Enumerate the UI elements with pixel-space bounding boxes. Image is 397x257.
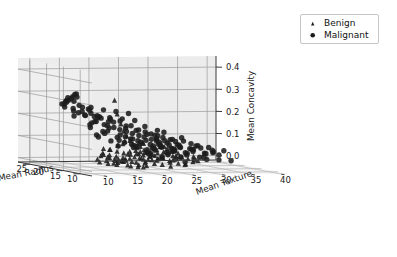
malignant-point (92, 119, 97, 124)
malignant-point (181, 138, 186, 143)
malignant-point (143, 138, 148, 143)
malignant-point (111, 119, 116, 124)
malignant-point (116, 138, 121, 143)
z-tick-label: 0.1 (226, 129, 240, 139)
malignant-point (161, 130, 166, 135)
legend-label-benign: Benign (324, 18, 355, 28)
legend[interactable]: Benign Malignant (301, 15, 379, 44)
malignant-point (155, 133, 160, 138)
y-tick-label: 10 (103, 177, 114, 187)
malignant-point (98, 115, 103, 120)
malignant-point (132, 118, 137, 123)
malignant-point (136, 133, 141, 138)
malignant-point (105, 123, 110, 128)
malignant-point (204, 157, 209, 162)
scatter3d-plot: 10152025101520253035400.00.10.20.30.4 Me… (0, 0, 397, 257)
malignant-point (149, 137, 154, 142)
malignant-point (115, 143, 120, 148)
y-tick-label: 25 (191, 176, 202, 186)
z-tick-label: 0.2 (226, 107, 240, 117)
malignant-point (130, 136, 135, 141)
malignant-point (70, 106, 75, 111)
malignant-point (130, 131, 135, 136)
malignant-point (145, 149, 150, 154)
malignant-point (191, 147, 196, 152)
malignant-point (136, 127, 141, 132)
malignant-point (126, 111, 131, 116)
malignant-point (87, 107, 92, 112)
malignant-point (117, 132, 122, 137)
z-axis-label: Mean Concavity (246, 71, 256, 141)
malignant-point (96, 134, 101, 139)
malignant-point (113, 109, 118, 114)
malignant-point (117, 127, 122, 132)
malignant-point (178, 154, 183, 159)
malignant-point (216, 157, 221, 162)
z-tick-label: 0.3 (226, 85, 240, 95)
y-tick-label: 40 (280, 175, 291, 185)
malignant-point (158, 142, 163, 147)
malignant-point (172, 147, 177, 152)
left-wall-pane (18, 58, 92, 176)
malignant-point (128, 123, 133, 128)
malignant-point (173, 157, 178, 162)
malignant-point (159, 155, 164, 160)
malignant-point (82, 112, 87, 117)
malignant-point (195, 143, 200, 148)
malignant-circle-icon (310, 33, 315, 38)
malignant-point (206, 145, 211, 150)
y-tick-label: 15 (132, 176, 143, 186)
malignant-point (105, 128, 110, 133)
malignant-point (155, 128, 160, 133)
x-axis-label: Mean Radius (0, 163, 55, 183)
malignant-point (76, 103, 81, 108)
z-tick-label: 0.0 (226, 151, 240, 161)
z-tick-label: 0.4 (226, 62, 240, 72)
malignant-point (59, 101, 64, 106)
malignant-point (188, 141, 193, 146)
malignant-point (137, 141, 142, 146)
malignant-point (162, 138, 167, 143)
malignant-point (216, 152, 221, 157)
malignant-point (210, 150, 215, 155)
malignant-point (166, 150, 171, 155)
malignant-point (142, 124, 147, 129)
malignant-point (142, 129, 147, 134)
malignant-point (148, 131, 153, 136)
malignant-point (108, 138, 113, 143)
malignant-point (184, 151, 189, 156)
malignant-point (87, 122, 92, 127)
malignant-point (107, 115, 112, 120)
malignant-point (65, 95, 70, 100)
malignant-point (101, 107, 106, 112)
malignant-point (111, 125, 116, 130)
figure-canvas: 10152025101520253035400.00.10.20.30.4 Me… (0, 0, 397, 257)
malignant-point (124, 129, 129, 134)
malignant-point (151, 146, 156, 151)
malignant-point (123, 134, 128, 139)
malignant-point (76, 110, 81, 115)
legend-label-malignant: Malignant (324, 30, 369, 40)
malignant-point (120, 116, 125, 121)
malignant-point (71, 113, 76, 118)
malignant-point (74, 91, 79, 96)
malignant-point (176, 143, 181, 148)
malignant-point (122, 140, 127, 145)
malignant-point (123, 123, 128, 128)
x-tick-label: 10 (67, 174, 78, 184)
malignant-point (131, 145, 136, 150)
y-tick-label: 20 (162, 176, 173, 186)
